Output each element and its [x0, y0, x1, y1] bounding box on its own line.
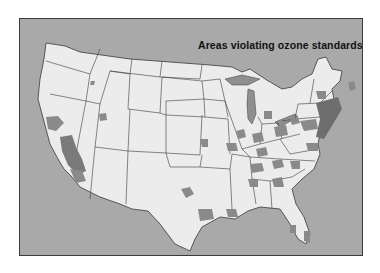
area-ohio-1: [274, 125, 288, 137]
area-maine: [348, 81, 356, 91]
us-map: [20, 19, 363, 256]
area-utah: [99, 113, 107, 121]
area-texas-houston: [198, 209, 214, 221]
area-indiana: [252, 132, 264, 143]
us-landmass: [38, 43, 342, 251]
area-northeast-corridor: [316, 97, 342, 139]
area-virginia: [306, 143, 318, 151]
area-louisiana: [226, 209, 238, 217]
area-michigan: [264, 111, 272, 119]
area-missouri-stl: [226, 143, 238, 151]
map-frame: Areas violating ozone standards: [19, 18, 363, 256]
area-florida-tampa: [290, 225, 296, 233]
area-florida-miami: [304, 231, 310, 243]
